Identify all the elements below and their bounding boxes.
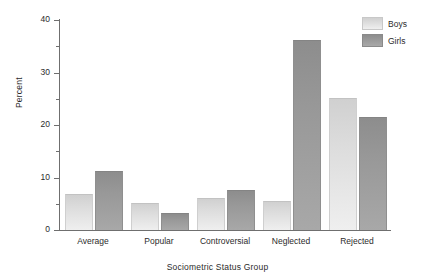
y-tick-label: 10 <box>26 172 50 182</box>
y-tick-minor <box>56 99 59 100</box>
x-category-label-rejected: Rejected <box>340 236 374 246</box>
y-tick-major <box>54 125 59 126</box>
x-category-label-popular: Popular <box>144 236 173 246</box>
bar-chart: Percent 010203040 AveragePopularControve… <box>0 0 435 278</box>
bar-rejected-boys <box>329 98 357 230</box>
y-tick-minor <box>56 46 59 47</box>
y-tick-major <box>54 230 59 231</box>
legend-swatch-boys-icon <box>362 17 383 30</box>
bars-layer <box>60 20 390 230</box>
x-category-label-controversial: Controversial <box>200 236 250 246</box>
y-tick-major <box>54 73 59 74</box>
bar-rejected-girls <box>359 117 387 230</box>
chart-legend: Boys Girls <box>362 17 407 47</box>
bar-popular-girls <box>161 213 189 230</box>
bar-average-girls <box>95 171 123 230</box>
bar-average-boys <box>65 194 93 230</box>
legend-item-boys: Boys <box>362 17 407 30</box>
x-category-label-average: Average <box>77 236 109 246</box>
bar-popular-boys <box>131 203 159 230</box>
y-tick-label: 40 <box>26 14 50 24</box>
legend-label-boys: Boys <box>388 19 407 29</box>
y-tick-label: 30 <box>26 67 50 77</box>
y-tick-minor <box>56 204 59 205</box>
bar-neglected-girls <box>293 40 321 230</box>
x-axis-title: Sociometric Status Group <box>0 262 435 272</box>
x-category-label-neglected: Neglected <box>272 236 310 246</box>
y-axis-title: Percent <box>14 77 24 108</box>
bar-controversial-boys <box>197 198 225 231</box>
x-axis-line <box>59 230 391 231</box>
legend-swatch-girls-icon <box>362 34 383 47</box>
y-tick-major <box>54 178 59 179</box>
y-tick-label: 20 <box>26 119 50 129</box>
legend-item-girls: Girls <box>362 34 407 47</box>
bar-controversial-girls <box>227 190 255 230</box>
plot-area <box>60 20 390 230</box>
y-tick-minor <box>56 151 59 152</box>
bar-neglected-boys <box>263 201 291 230</box>
y-tick-label: 0 <box>26 224 50 234</box>
legend-label-girls: Girls <box>388 36 405 46</box>
y-tick-major <box>54 20 59 21</box>
